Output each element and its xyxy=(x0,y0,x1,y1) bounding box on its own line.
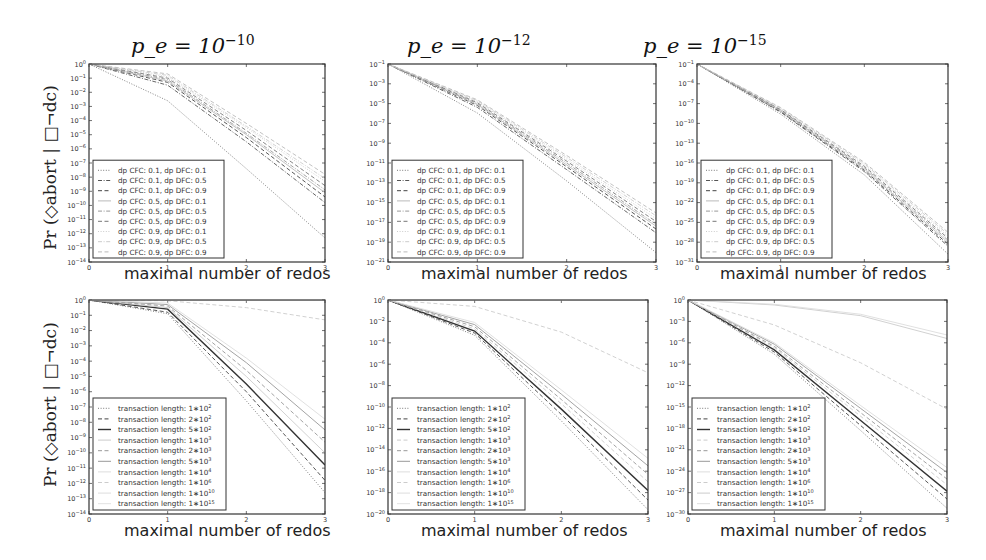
legend-entry: transaction length: 1∗103 xyxy=(118,435,211,445)
svg-text:1: 1 xyxy=(473,516,477,524)
svg-text:10−3: 10−3 xyxy=(369,78,385,88)
svg-text:10−28: 10−28 xyxy=(675,237,694,247)
svg-text:2: 2 xyxy=(859,516,863,524)
legend-entry: dp CFC: 0.5, dp DFC: 0.1 xyxy=(118,197,207,206)
legend-entry: transaction length: 1∗106 xyxy=(717,478,810,488)
svg-text:100: 100 xyxy=(75,295,86,305)
svg-text:0: 0 xyxy=(386,264,390,272)
svg-text:10−22: 10−22 xyxy=(675,197,694,207)
legend-entry: dp CFC: 0.1, dp DFC: 0.1 xyxy=(417,166,506,175)
legend-entry: dp CFC: 0.5, dp DFC: 0.5 xyxy=(417,207,506,216)
legend-entry: transaction length: 1∗1010 xyxy=(118,488,215,498)
svg-text:3: 3 xyxy=(946,264,950,272)
legend-entry: dp CFC: 0.1, dp DFC: 0.5 xyxy=(417,176,506,185)
legend-entry: dp CFC: 0.9, dp DFC: 0.5 xyxy=(417,237,506,246)
svg-text:10−1: 10−1 xyxy=(369,59,385,69)
svg-text:10−19: 10−19 xyxy=(675,177,694,187)
svg-text:10−31: 10−31 xyxy=(675,257,694,267)
legend-entry: dp CFC: 0.1, dp DFC: 0.1 xyxy=(726,166,815,175)
svg-text:10−2: 10−2 xyxy=(70,325,86,335)
svg-text:2: 2 xyxy=(862,264,866,272)
svg-text:10−8: 10−8 xyxy=(70,172,86,182)
legend-entry: dp CFC: 0.9, dp DFC: 0.5 xyxy=(726,237,815,246)
svg-text:10−12: 10−12 xyxy=(67,228,86,238)
legend-entry: dp CFC: 0.5, dp DFC: 0.1 xyxy=(726,197,815,206)
svg-text:10−9: 10−9 xyxy=(369,138,385,148)
chart-panel-5: 10010−310−610−910−1210−1510−1810−2110−24… xyxy=(666,295,949,525)
legend-entry: transaction length: 5∗102 xyxy=(417,425,510,435)
svg-text:3: 3 xyxy=(945,516,949,524)
svg-text:2: 2 xyxy=(244,264,248,272)
svg-text:10−12: 10−12 xyxy=(366,423,385,433)
legend-entry: dp CFC: 0.5, dp DFC: 0.9 xyxy=(118,217,207,226)
svg-text:10−1: 10−1 xyxy=(70,73,86,83)
svg-text:100: 100 xyxy=(374,295,385,305)
chart-panel-3: 10010−110−210−310−410−510−610−710−810−91… xyxy=(67,295,327,525)
svg-text:100: 100 xyxy=(75,59,86,69)
svg-text:10−3: 10−3 xyxy=(669,316,685,326)
svg-text:10−1: 10−1 xyxy=(678,59,694,69)
svg-text:10−13: 10−13 xyxy=(366,177,385,187)
legend: transaction length: 1∗102transaction len… xyxy=(93,398,226,510)
legend-entry: transaction length: 5∗102 xyxy=(118,425,211,435)
svg-text:10−9: 10−9 xyxy=(70,186,86,196)
legend-entry: transaction length: 2∗103 xyxy=(717,446,810,456)
svg-text:10−16: 10−16 xyxy=(675,158,694,168)
figure-plots: 10010−110−210−310−410−510−610−710−810−91… xyxy=(0,0,986,560)
svg-text:2: 2 xyxy=(565,264,569,272)
svg-text:10−15: 10−15 xyxy=(366,197,385,207)
legend: dp CFC: 0.1, dp DFC: 0.1dp CFC: 0.1, dp … xyxy=(93,160,224,258)
svg-text:0: 0 xyxy=(87,264,91,272)
legend-entry: dp CFC: 0.5, dp DFC: 0.1 xyxy=(417,197,506,206)
legend-entry: transaction length: 1∗106 xyxy=(417,478,510,488)
legend-entry: dp CFC: 0.1, dp DFC: 0.1 xyxy=(118,166,207,175)
svg-text:10−9: 10−9 xyxy=(70,432,86,442)
svg-text:10−15: 10−15 xyxy=(666,402,685,412)
svg-text:10−17: 10−17 xyxy=(366,217,385,227)
legend-entry: dp CFC: 0.1, dp DFC: 0.9 xyxy=(118,186,207,195)
legend-entry: dp CFC: 0.9, dp DFC: 0.9 xyxy=(118,248,207,257)
svg-text:3: 3 xyxy=(646,516,650,524)
chart-panel-2: 10−110−410−710−1010−1310−1610−1910−2210−… xyxy=(675,59,950,273)
svg-text:3: 3 xyxy=(323,516,327,524)
legend-entry: dp CFC: 0.5, dp DFC: 0.9 xyxy=(417,217,506,226)
legend-entry: transaction length: 5∗103 xyxy=(717,456,810,466)
svg-text:10−13: 10−13 xyxy=(67,493,86,503)
legend-entry: dp CFC: 0.5, dp DFC: 0.5 xyxy=(726,207,815,216)
legend-entry: transaction length: 1∗104 xyxy=(717,467,810,477)
svg-text:1: 1 xyxy=(166,516,170,524)
legend-entry: dp CFC: 0.9, dp DFC: 0.9 xyxy=(417,248,506,257)
svg-text:10−7: 10−7 xyxy=(70,158,86,168)
svg-text:2: 2 xyxy=(559,516,563,524)
svg-text:1: 1 xyxy=(166,264,170,272)
svg-text:10−4: 10−4 xyxy=(70,115,86,125)
svg-text:10−7: 10−7 xyxy=(678,98,694,108)
svg-text:10−12: 10−12 xyxy=(666,380,685,390)
legend-entry: transaction length: 2∗103 xyxy=(118,446,211,456)
svg-text:10−6: 10−6 xyxy=(70,143,86,153)
svg-text:0: 0 xyxy=(695,264,699,272)
svg-text:10−21: 10−21 xyxy=(366,257,385,267)
svg-text:10−10: 10−10 xyxy=(67,200,86,210)
svg-text:10−2: 10−2 xyxy=(70,87,86,97)
svg-text:10−11: 10−11 xyxy=(366,158,385,168)
legend-entry: transaction length: 1∗102 xyxy=(417,403,510,413)
svg-text:1: 1 xyxy=(779,264,783,272)
svg-text:10−7: 10−7 xyxy=(70,402,86,412)
svg-text:10−8: 10−8 xyxy=(369,380,385,390)
svg-text:10−4: 10−4 xyxy=(369,337,385,347)
svg-text:10−19: 10−19 xyxy=(366,237,385,247)
legend-entry: transaction length: 2∗102 xyxy=(118,414,211,424)
svg-text:1: 1 xyxy=(475,264,479,272)
legend-entry: transaction length: 1∗102 xyxy=(118,403,211,413)
legend-entry: dp CFC: 0.1, dp DFC: 0.9 xyxy=(417,186,506,195)
legend-entry: transaction length: 1∗1015 xyxy=(118,499,215,509)
legend-entry: transaction length: 1∗106 xyxy=(118,478,211,488)
svg-text:10−27: 10−27 xyxy=(666,487,685,497)
svg-text:10−25: 10−25 xyxy=(675,217,694,227)
svg-text:10−13: 10−13 xyxy=(675,138,694,148)
svg-text:10−8: 10−8 xyxy=(70,417,86,427)
svg-text:10−10: 10−10 xyxy=(675,118,694,128)
svg-text:10−9: 10−9 xyxy=(669,359,685,369)
svg-text:3: 3 xyxy=(323,264,327,272)
